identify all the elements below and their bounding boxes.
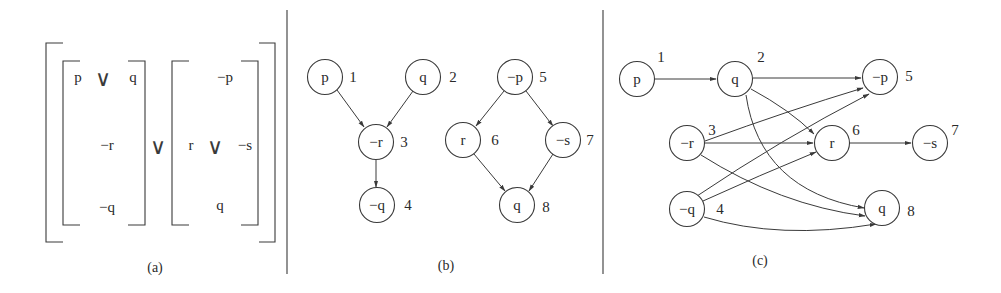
caption-c: (c)	[752, 253, 768, 269]
node-b-7-number: 7	[586, 132, 594, 148]
node-b-8: q 8	[500, 188, 550, 223]
svg-text:q: q	[419, 69, 427, 85]
edge-c-4-6	[703, 152, 816, 201]
left-block-close-bracket	[128, 61, 145, 225]
node-c-1: p 1	[620, 49, 665, 97]
node-c-3: −r 3	[670, 122, 716, 161]
svg-text:p: p	[633, 71, 641, 87]
left-block-open-bracket	[63, 61, 80, 225]
node-b-3: −r 3	[359, 125, 408, 160]
edge-b-1-3	[337, 90, 364, 127]
svg-text:−p: −p	[872, 69, 888, 85]
node-c-6: r 6	[815, 122, 861, 161]
node-c-1-number: 1	[657, 49, 665, 65]
svg-text:−r: −r	[680, 135, 693, 151]
edge-b-7-8	[529, 154, 553, 191]
svg-text:q: q	[731, 71, 739, 87]
svg-text:−q: −q	[679, 201, 695, 217]
svg-text:−s: −s	[556, 132, 570, 148]
node-b-8-number: 8	[542, 199, 550, 215]
right-row3: q	[216, 197, 224, 213]
edge-c-2-6	[751, 89, 814, 134]
node-b-1: p 1	[308, 60, 357, 95]
left-row1-or: ∨	[95, 66, 111, 91]
panel-a: p ∨ q −r −q ∨ −p r ∨ −s q (a)	[46, 43, 275, 276]
svg-text:−p: −p	[507, 69, 523, 85]
node-c-2: q 2	[718, 49, 765, 97]
outer-left-bracket	[46, 43, 63, 242]
svg-text:p: p	[321, 69, 329, 85]
right-block-open-bracket	[172, 61, 189, 225]
node-b-7: −s 7	[546, 123, 595, 158]
node-c-5-number: 5	[905, 68, 913, 84]
node-b-2-number: 2	[449, 69, 457, 85]
svg-text:r: r	[830, 135, 835, 151]
edge-c-3-8	[701, 155, 865, 216]
node-b-5: −p 5	[498, 60, 547, 95]
edge-c-4-8	[704, 217, 876, 231]
right-row1: −p	[217, 69, 233, 85]
node-b-1-number: 1	[349, 69, 357, 85]
edge-b-2-3	[387, 91, 413, 127]
caption-b: (b)	[438, 258, 455, 274]
node-c-7-number: 7	[951, 122, 959, 138]
figure: p ∨ q −r −q ∨ −p r ∨ −s q (a) p 1 q	[0, 0, 1001, 293]
node-c-4-number: 4	[716, 201, 724, 217]
panel-c: p 1 q 2 −r 3 −q 4 −p 5 r	[620, 49, 960, 269]
node-b-3-number: 3	[400, 134, 408, 150]
right-row2-or: ∨	[207, 134, 223, 159]
node-b-5-number: 5	[539, 69, 547, 85]
outer-right-bracket	[259, 43, 275, 242]
left-row1-left: p	[74, 69, 82, 85]
svg-text:q: q	[878, 200, 886, 216]
left-row1-right: q	[129, 69, 137, 85]
left-row3: −q	[99, 199, 115, 215]
node-c-5: −p 5	[863, 60, 913, 95]
node-b-4-number: 4	[404, 197, 412, 213]
node-c-6-number: 6	[852, 122, 860, 138]
left-row2: −r	[100, 137, 113, 153]
node-b-4: −q 4	[360, 188, 413, 223]
node-c-8: q 8	[865, 191, 915, 226]
edge-b-6-8	[474, 154, 505, 191]
node-c-7: −s 7	[913, 122, 960, 161]
join-or: ∨	[150, 134, 166, 159]
node-c-8-number: 8	[907, 203, 915, 219]
svg-text:q: q	[513, 197, 521, 213]
edge-b-5-6	[476, 91, 504, 126]
svg-text:r: r	[461, 132, 466, 148]
svg-text:−q: −q	[369, 197, 385, 213]
svg-text:−r: −r	[369, 134, 382, 150]
node-c-4: −q 4	[670, 192, 725, 227]
node-c-2-number: 2	[757, 49, 765, 65]
caption-a: (a)	[147, 260, 163, 276]
svg-text:−s: −s	[923, 135, 937, 151]
panel-b: p 1 q 2 −r 3 −q 4 −p 5 r	[308, 60, 595, 275]
node-b-2: q 2	[406, 60, 457, 95]
right-row2-left: r	[189, 137, 194, 153]
edge-b-5-7	[526, 91, 553, 126]
node-b-6: r 6	[446, 123, 500, 158]
right-row2-right: −s	[238, 137, 252, 153]
node-b-6-number: 6	[491, 132, 499, 148]
node-c-3-number: 3	[708, 122, 716, 138]
